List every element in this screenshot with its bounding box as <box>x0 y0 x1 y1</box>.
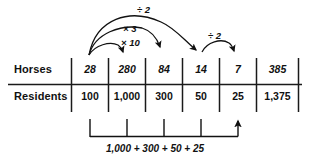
cell-horses-1: 28 <box>72 63 108 75</box>
cell-horses-2: 280 <box>109 63 145 75</box>
operation-label-div2-right: ÷ 2 <box>208 30 221 41</box>
math-strategy-diagram: Horses Residents 28 280 84 14 7 385 100 … <box>0 0 310 163</box>
cell-residents-4: 50 <box>183 90 219 102</box>
cell-horses-3: 84 <box>146 63 182 75</box>
row-label-horses: Horses <box>14 63 52 75</box>
arrow-div2-top <box>89 16 196 55</box>
cell-residents-5: 25 <box>220 90 256 102</box>
sum-bracket <box>90 119 238 137</box>
diagram-lines-layer <box>0 0 310 163</box>
operation-label-div2-top: ÷ 2 <box>137 4 150 15</box>
operation-label-mult3: × 3 <box>123 23 136 34</box>
cell-horses-4: 14 <box>183 63 219 75</box>
cell-residents-3: 300 <box>146 90 182 102</box>
arrow-div2-right <box>202 41 234 52</box>
cell-residents-6: 1,375 <box>257 90 298 102</box>
cell-residents-2: 1,000 <box>109 90 145 102</box>
cell-horses-5: 7 <box>220 63 256 75</box>
row-label-residents: Residents <box>14 90 67 102</box>
cell-horses-6: 385 <box>257 63 298 75</box>
cell-residents-1: 100 <box>72 90 108 102</box>
sum-equation-text: 1,000 + 300 + 50 + 25 <box>0 143 310 154</box>
operation-label-mult10: × 10 <box>121 37 140 48</box>
